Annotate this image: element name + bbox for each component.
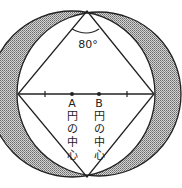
- svg-text:心: 心: [67, 149, 78, 162]
- two-circles-diagram: 80° A 円 の 中 心 B 円 の 中 心: [0, 0, 182, 188]
- svg-text:心: 心: [94, 149, 105, 162]
- svg-text:B: B: [95, 97, 103, 110]
- svg-text:中: 中: [94, 136, 105, 149]
- center-b-dot: [97, 92, 101, 96]
- diagram-svg: 80° A 円 の 中 心 B 円 の 中 心: [0, 0, 182, 188]
- angle-label: 80°: [78, 38, 98, 51]
- svg-text:の: の: [94, 123, 105, 136]
- svg-text:円: 円: [94, 110, 105, 123]
- center-a-dot: [70, 92, 74, 96]
- svg-text:A: A: [68, 97, 76, 110]
- svg-text:中: 中: [67, 136, 78, 149]
- svg-text:円: 円: [67, 110, 78, 123]
- svg-text:の: の: [67, 123, 78, 136]
